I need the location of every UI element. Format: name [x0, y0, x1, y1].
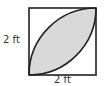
bottom-side-label: 2 ft	[54, 75, 71, 85]
left-side-label: 2 ft	[3, 35, 20, 45]
shaded-lens-region	[29, 8, 96, 75]
